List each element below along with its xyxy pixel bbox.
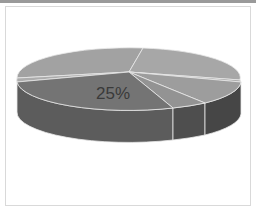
pie-chart-3d [0, 0, 256, 212]
slice-2-side [173, 103, 205, 140]
slice-1-data-label: 25% [96, 84, 130, 104]
